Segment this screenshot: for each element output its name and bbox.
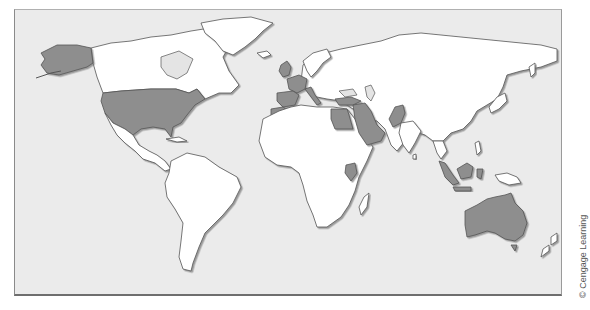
united-kingdom xyxy=(279,61,291,77)
south-america xyxy=(165,153,241,271)
iceland xyxy=(257,51,271,58)
sri-lanka xyxy=(413,154,416,159)
tasmania xyxy=(511,245,517,251)
copyright-credit: © Cengage Learning xyxy=(578,215,588,298)
map-svg xyxy=(14,9,562,296)
spain-portugal xyxy=(277,91,299,107)
borneo xyxy=(457,163,473,179)
caribbean xyxy=(166,137,187,142)
madagascar xyxy=(359,193,369,215)
southeast-asia xyxy=(433,141,447,159)
australia xyxy=(465,193,527,241)
alaska xyxy=(41,45,93,75)
malaysia-sumatra xyxy=(439,161,459,185)
philippines xyxy=(475,141,481,155)
java xyxy=(453,187,471,191)
france xyxy=(287,75,307,93)
new-guinea xyxy=(495,173,521,185)
world-map xyxy=(14,9,562,296)
sulawesi xyxy=(477,169,483,179)
new-zealand xyxy=(541,233,557,257)
